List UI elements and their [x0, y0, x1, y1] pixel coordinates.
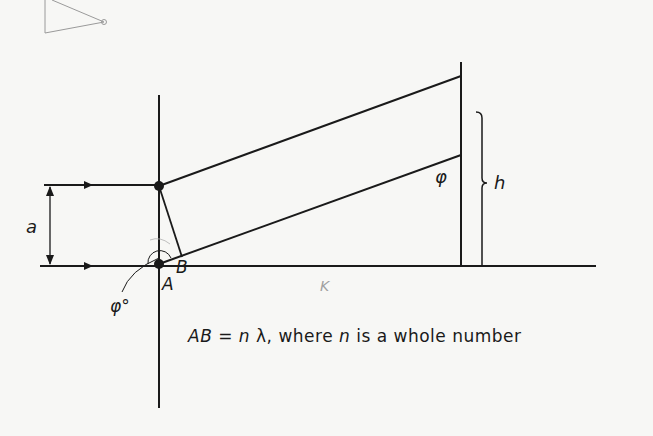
arrow-up-icon — [46, 186, 54, 196]
pencil-sketch-triangle — [45, 0, 107, 33]
caption-lambda: λ — [250, 326, 266, 346]
pencil-mark-k: K — [320, 278, 331, 294]
label-phi: φ — [435, 166, 447, 187]
height-brace — [476, 112, 487, 266]
angle-arc-phi-origin — [122, 258, 159, 292]
label-point-b: B — [176, 257, 188, 277]
arrow-icon — [84, 181, 93, 189]
caption-n2: n — [339, 326, 350, 346]
perpendicular-to-b — [159, 186, 182, 257]
caption-lhs: AB — [188, 326, 212, 346]
caption-n1: n — [239, 326, 250, 346]
arrow-icon — [84, 262, 93, 270]
caption-equals: = — [212, 326, 239, 346]
upper-point-dot — [154, 181, 164, 191]
label-point-a: A — [161, 274, 174, 294]
arrow-down-icon — [46, 255, 54, 265]
label-phi-origin: φ° — [110, 296, 130, 316]
caption: AB = n λ, where n is a whole number — [188, 326, 522, 346]
label-h: h — [494, 172, 505, 193]
point-a-dot — [154, 259, 164, 269]
caption-mid: , where — [267, 326, 339, 346]
caption-rest: is a whole number — [350, 326, 521, 346]
diffracted-ray-lower — [159, 155, 461, 264]
diffracted-ray-upper — [159, 76, 461, 186]
label-a: a — [26, 216, 37, 237]
diffraction-diagram: a A B φ φ° h K — [0, 0, 653, 436]
